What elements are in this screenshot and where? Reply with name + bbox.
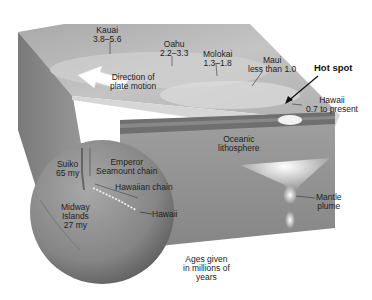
island-age: 2.2–3.3 — [160, 49, 188, 58]
oceanic-lithosphere-label: Oceanic lithosphere — [218, 135, 260, 153]
mantle-plume-label: Mantle plume — [316, 193, 342, 211]
island-hawaii: Hawaii 0.7 to present — [306, 96, 358, 114]
island-molokai: Molokai 1.3–1.8 — [203, 50, 232, 68]
island-oahu: Oahu 2.2–3.3 — [160, 40, 188, 58]
plume-tail — [285, 211, 295, 229]
island-kauai: Kauai 3.8–5.6 — [93, 26, 121, 44]
hot-spot-diagram: Kauai 3.8–5.6 Oahu 2.2–3.3 Molokai 1.3–1… — [0, 0, 372, 300]
island-age: 0.7 to present — [306, 105, 358, 114]
globe-hawaii-label: Hawaii — [152, 210, 178, 219]
hawaiian-chain-label: Hawaiian chain — [115, 183, 173, 192]
suiko-label: Suiko 65 my — [56, 160, 79, 178]
hot-spot-label: Hot spot — [314, 63, 353, 72]
midway-islands-label: Midway Islands 27 my — [61, 203, 90, 230]
plate-motion-label: Direction of plate motion — [110, 73, 156, 91]
island-maui: Maui less than 1.0 — [248, 56, 296, 74]
island-age: less than 1.0 — [248, 65, 296, 74]
plume-head — [283, 186, 297, 204]
ages-footnote: Ages given in millions of years — [183, 255, 230, 282]
hot-spot-glow — [278, 115, 302, 125]
island-age: 1.3–1.8 — [203, 59, 232, 68]
emperor-seamount-label: Emperor Seamount chain — [96, 158, 157, 176]
island-age: 3.8–5.6 — [93, 35, 121, 44]
